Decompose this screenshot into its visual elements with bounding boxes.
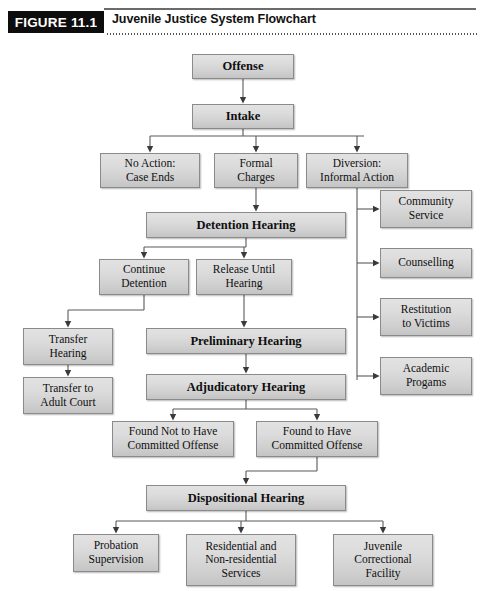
header-dotted-rule bbox=[106, 33, 478, 35]
node-label: Found to HaveCommitted Offense bbox=[269, 425, 366, 452]
node-label: Intake bbox=[223, 109, 264, 124]
node-label: Transfer toAdult Court bbox=[37, 382, 98, 409]
node-label: Detention Hearing bbox=[194, 218, 299, 233]
node-no-action-case-ends[interactable]: No Action:Case Ends bbox=[100, 153, 200, 188]
node-label: Restitutionto Victims bbox=[398, 303, 454, 330]
node-label: FormalCharges bbox=[234, 157, 277, 184]
node-label: Diversion:Informal Action bbox=[317, 157, 397, 184]
node-transfer-to-adult-court[interactable]: Transfer toAdult Court bbox=[23, 377, 113, 414]
node-label: Offense bbox=[220, 59, 267, 74]
node-label: ContinueDetention bbox=[118, 263, 169, 290]
node-label: Preliminary Hearing bbox=[187, 334, 304, 349]
node-label: No Action:Case Ends bbox=[122, 157, 179, 184]
node-label: AcademicProgams bbox=[400, 362, 453, 389]
node-detention-hearing[interactable]: Detention Hearing bbox=[146, 212, 346, 238]
node-transfer-hearing[interactable]: TransferHearing bbox=[23, 328, 113, 365]
node-dispositional-hearing[interactable]: Dispositional Hearing bbox=[146, 485, 346, 511]
node-release-until-hearing[interactable]: Release UntilHearing bbox=[196, 259, 292, 295]
node-found-committed[interactable]: Found to HaveCommitted Offense bbox=[256, 421, 378, 457]
node-restitution-to-victims[interactable]: Restitutionto Victims bbox=[380, 298, 472, 336]
node-label: Found Not to HaveCommitted Offense bbox=[125, 425, 222, 452]
flowchart-canvas: Offense Intake No Action:Case Ends Forma… bbox=[0, 46, 485, 591]
figure-header: FIGURE 11.1 Juvenile Justice System Flow… bbox=[0, 0, 485, 46]
node-juvenile-correctional-facility[interactable]: JuvenileCorrectionalFacility bbox=[333, 534, 433, 586]
node-offense[interactable]: Offense bbox=[192, 54, 294, 79]
node-counselling[interactable]: Counselling bbox=[380, 248, 472, 278]
node-label: TransferHearing bbox=[46, 333, 91, 360]
node-label: Counselling bbox=[395, 256, 457, 270]
node-community-service[interactable]: CommunityService bbox=[380, 190, 472, 228]
figure-title: Juvenile Justice System Flowchart bbox=[112, 12, 316, 26]
header-top-rule bbox=[104, 8, 476, 10]
node-diversion-informal-action[interactable]: Diversion:Informal Action bbox=[306, 153, 408, 188]
node-intake[interactable]: Intake bbox=[192, 104, 294, 129]
node-label: Dispositional Hearing bbox=[185, 491, 307, 506]
node-probation-supervision[interactable]: ProbationSupervision bbox=[73, 534, 159, 572]
node-label: Adjudicatory Hearing bbox=[184, 380, 308, 395]
node-continue-detention[interactable]: ContinueDetention bbox=[99, 259, 189, 295]
node-label: Release UntilHearing bbox=[210, 263, 278, 290]
node-adjudicatory-hearing[interactable]: Adjudicatory Hearing bbox=[146, 374, 346, 400]
figure-number-badge: FIGURE 11.1 bbox=[8, 11, 104, 33]
node-academic-programs[interactable]: AcademicProgams bbox=[380, 357, 472, 395]
node-preliminary-hearing[interactable]: Preliminary Hearing bbox=[146, 328, 346, 354]
node-residential-services[interactable]: Residential andNon-residentialServices bbox=[186, 534, 296, 586]
node-label: Residential andNon-residentialServices bbox=[202, 540, 280, 581]
node-label: JuvenileCorrectionalFacility bbox=[351, 540, 414, 581]
node-label: CommunityService bbox=[396, 195, 457, 222]
figure-number-label: FIGURE 11.1 bbox=[15, 15, 97, 30]
node-label: ProbationSupervision bbox=[86, 539, 147, 566]
node-formal-charges[interactable]: FormalCharges bbox=[214, 153, 298, 188]
node-found-not-committed[interactable]: Found Not to HaveCommitted Offense bbox=[112, 421, 234, 457]
